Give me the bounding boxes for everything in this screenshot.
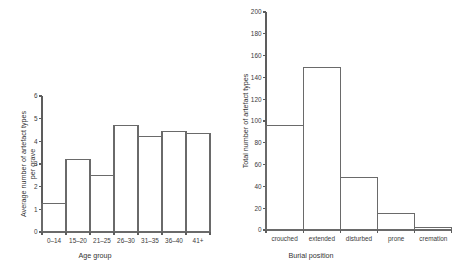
bar-41+[interactable]	[186, 133, 210, 232]
bar-36–40[interactable]	[162, 131, 186, 232]
y-axis-title-line2: per grave	[28, 149, 37, 179]
y-tick-label: 180	[251, 30, 262, 37]
y-axis-title: Average number of artefact typesper grav…	[19, 111, 37, 218]
bar-extended[interactable]	[303, 68, 340, 230]
y-tick-label: 60	[254, 161, 262, 168]
x-tick-label: extended	[309, 235, 336, 242]
x-tick-label: 41+	[193, 237, 204, 244]
x-tick-label: 31–35	[141, 237, 159, 244]
y-tick-label: 0	[34, 228, 38, 235]
x-tick-label: disturbed	[346, 235, 373, 242]
bar-15–20[interactable]	[66, 159, 90, 232]
burial-position-chart-svg: 020406080100120140160180200crouchedexten…	[226, 0, 452, 274]
bar-prone[interactable]	[378, 214, 415, 230]
burial-position-chart-panel: 020406080100120140160180200crouchedexten…	[226, 0, 452, 274]
x-axis-title: Burial position	[288, 251, 333, 260]
y-tick-label: 200	[251, 8, 262, 15]
x-tick-label: crouched	[271, 235, 298, 242]
x-tick-label: cremation	[419, 235, 448, 242]
x-tick-label: 0–14	[47, 237, 62, 244]
figure-root: 01234560–1415–2021–2526–3031–3536–4041+A…	[0, 0, 452, 274]
bar-0–14[interactable]	[42, 204, 66, 232]
bar-crouched[interactable]	[266, 125, 303, 230]
x-tick-label: prone	[388, 235, 405, 243]
y-tick-label: 4	[34, 138, 38, 145]
y-tick-label: 140	[251, 74, 262, 81]
y-axis-title: Total number of artefact types	[241, 73, 250, 168]
y-tick-label: 80	[254, 139, 262, 146]
y-tick-label: 20	[254, 205, 262, 212]
x-tick-label: 36–40	[165, 237, 183, 244]
x-tick-label: 26–30	[117, 237, 135, 244]
y-tick-label: 160	[251, 52, 262, 59]
age-group-chart-panel: 01234560–1415–2021–2526–3031–3536–4041+A…	[0, 0, 226, 274]
x-axis-title: Age group	[78, 251, 111, 260]
y-tick-label: 100	[251, 117, 262, 124]
y-tick-label: 6	[34, 92, 38, 99]
bar-31–35[interactable]	[138, 137, 162, 232]
bar-26–30[interactable]	[114, 125, 138, 232]
y-tick-label: 5	[34, 115, 38, 122]
y-tick-label: 1	[34, 206, 38, 213]
y-tick-label: 0	[258, 226, 262, 233]
y-tick-label: 2	[34, 183, 38, 190]
y-tick-label: 120	[251, 96, 262, 103]
bar-21–25[interactable]	[90, 175, 114, 232]
y-axis-title-line1: Total number of artefact types	[241, 73, 250, 168]
x-tick-label: 15–20	[69, 237, 87, 244]
y-tick-label: 40	[254, 183, 262, 190]
age-group-chart-svg: 01234560–1415–2021–2526–3031–3536–4041+A…	[0, 0, 226, 274]
bar-cremation[interactable]	[415, 228, 452, 230]
x-tick-label: 21–25	[93, 237, 111, 244]
bar-disturbed[interactable]	[340, 178, 377, 230]
y-axis-title-line1: Average number of artefact types	[19, 111, 28, 218]
